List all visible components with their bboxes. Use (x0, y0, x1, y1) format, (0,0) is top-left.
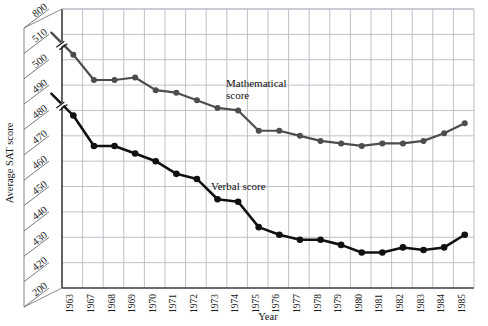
data-point-marker (235, 198, 242, 205)
x-axis-tick-label: 1972 (189, 294, 199, 313)
data-point-marker (400, 244, 407, 251)
x-axis-tick-label: 1985 (457, 294, 467, 313)
data-point-marker (214, 196, 221, 203)
x-axis-tick-label: 1978 (313, 294, 323, 313)
x-axis-tick-label: 1979 (333, 294, 343, 313)
y-axis-title: Average SAT score (4, 122, 15, 203)
data-point-marker (276, 231, 283, 238)
x-axis-tick-label: 1974 (230, 294, 240, 313)
data-point-marker (441, 244, 448, 251)
x-axis-tick-label: 1984 (436, 294, 446, 313)
data-point-marker (276, 128, 282, 134)
series-label-verbal: Verbal score (211, 180, 266, 192)
x-axis-tick-label: 1973 (210, 294, 220, 313)
x-axis-tick-label: 1971 (168, 294, 178, 313)
data-point-marker (338, 242, 345, 249)
data-point-marker (421, 138, 427, 144)
x-axis-tick-label: 1980 (354, 294, 364, 313)
data-point-marker (441, 130, 447, 136)
data-point-marker (153, 87, 159, 93)
data-point-marker (91, 77, 97, 83)
data-point-marker (420, 247, 427, 254)
x-axis-title: Year (258, 311, 278, 322)
data-point-marker (132, 150, 139, 157)
data-point-marker (152, 158, 159, 165)
data-point-marker (338, 140, 344, 146)
data-point-marker (317, 237, 324, 244)
data-point-marker (379, 140, 385, 146)
data-point-marker (255, 224, 262, 231)
data-point-marker (359, 143, 365, 149)
data-point-marker (111, 143, 118, 150)
data-point-marker (318, 138, 324, 144)
data-point-marker (297, 237, 304, 244)
data-point-marker (400, 140, 406, 146)
data-point-marker (379, 249, 386, 256)
data-point-marker (91, 143, 98, 150)
sat-scores-line-chart: 200420430440450460470480490500510800 196… (0, 0, 488, 326)
x-axis-tick-label: 1968 (107, 294, 117, 313)
x-axis-tick-label: 1983 (416, 294, 426, 313)
data-point-marker (173, 90, 179, 96)
data-point-marker (132, 74, 138, 80)
series-label-mathematical-line1: Mathematical (226, 77, 286, 89)
x-axis-tick-label: 1963 (65, 294, 75, 313)
data-point-marker (173, 171, 180, 178)
data-point-marker (215, 105, 221, 111)
x-axis-tick-label: 1977 (292, 294, 302, 313)
data-point-marker (235, 107, 241, 113)
data-point-marker (256, 128, 262, 134)
data-point-marker (194, 176, 201, 183)
x-axis-tick-label: 1982 (395, 294, 405, 313)
series-label-mathematical-line2: score (226, 89, 249, 101)
data-point-marker (297, 133, 303, 139)
x-axis-tick-label: 1969 (127, 294, 137, 313)
data-point-marker (112, 77, 118, 83)
x-axis-tick-label: 1967 (86, 294, 96, 313)
data-point-marker (462, 120, 468, 126)
data-point-marker (194, 97, 200, 103)
canvas-background (0, 0, 488, 326)
data-point-marker (461, 231, 468, 238)
chart-figure: 200420430440450460470480490500510800 196… (0, 0, 488, 326)
x-axis-tick-label: 1970 (148, 294, 158, 313)
x-axis-tick-label: 1981 (374, 294, 384, 313)
data-point-marker (358, 249, 365, 256)
